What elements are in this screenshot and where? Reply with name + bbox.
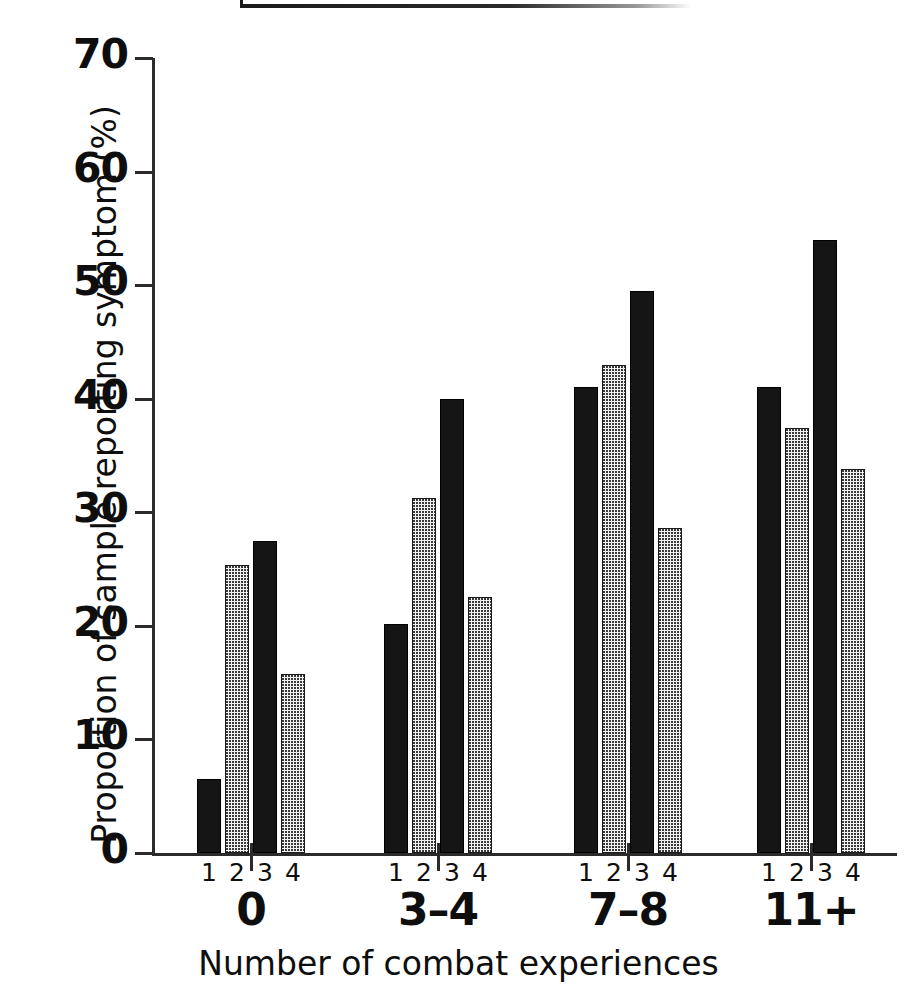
x-axis-sub-label: 3 [253,858,277,887]
x-axis-sub-label: 1 [197,858,221,887]
bars-layer [152,58,897,853]
bar [602,365,626,853]
bar [440,399,464,853]
y-axis-tick [135,738,153,741]
x-axis-sub-label: 3 [630,858,654,887]
x-axis-sub-label: 1 [757,858,781,887]
x-axis-sub-label: 4 [468,858,492,887]
bar [841,469,865,853]
x-axis-group-tick [250,843,253,871]
x-axis-line [152,853,897,856]
bar [412,498,436,853]
y-axis-title: Proportion of sample reporting symptom (… [85,75,124,875]
bar [253,541,277,853]
bar [384,624,408,853]
x-axis-sub-label: 2 [785,858,809,887]
y-axis-tick [135,284,153,287]
y-axis-tick-label: 70 [8,30,128,78]
bar [197,779,221,853]
x-axis-sub-label: 2 [225,858,249,887]
bar [785,428,809,853]
x-axis-sub-label: 4 [281,858,305,887]
x-axis-sub-label: 1 [574,858,598,887]
x-axis-sub-label: 3 [440,858,464,887]
bar [281,674,305,853]
x-axis-sub-label: 2 [412,858,436,887]
x-axis-title: Number of combat experiences [0,944,917,983]
x-axis-sub-label: 2 [602,858,626,887]
x-axis-sub-label: 4 [658,858,682,887]
legend-box-bottom-edge [240,4,692,8]
x-axis-sub-label: 4 [841,858,865,887]
bar [574,387,598,853]
x-axis-group-tick [437,843,440,871]
x-axis-group-label: 11+ [711,884,911,935]
y-axis-tick [135,852,153,855]
x-axis-group-label: 0 [151,884,351,935]
bar [468,597,492,853]
x-axis-group-label: 7–8 [528,884,728,935]
chart-figure: 706050403020100 Proportion of sample rep… [0,0,917,1003]
x-axis-group-tick [810,843,813,871]
bar [757,387,781,853]
y-axis-tick [135,171,153,174]
y-axis-tick [135,625,153,628]
bar [813,240,837,853]
bar [630,291,654,853]
y-axis-tick [135,511,153,514]
x-axis-sub-label: 1 [384,858,408,887]
y-axis-tick [135,57,153,60]
y-axis-tick [135,398,153,401]
x-axis-group-label: 3–4 [338,884,538,935]
x-axis-sub-label: 3 [813,858,837,887]
x-axis-group-tick [627,843,630,871]
bar [225,565,249,853]
bar [658,528,682,853]
